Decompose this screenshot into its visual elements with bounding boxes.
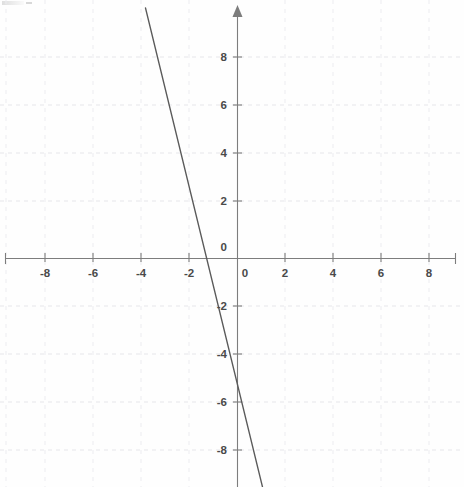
y-tick-label-neg8: -8	[217, 444, 228, 456]
x-tick-label-neg6: -6	[88, 267, 98, 279]
y-tick-label-neg2: -2	[217, 300, 227, 312]
y-tick-label-4: 4	[221, 147, 228, 159]
x-tick-label-6: 6	[378, 267, 384, 279]
y-tick-label-neg4: -4	[217, 348, 228, 360]
graph-canvas: -8 -6 -4 -2 0 2 4 6 8 8 6 4 2 0 -2 -4 -6…	[0, 0, 464, 487]
y-tick-label-2: 2	[221, 195, 227, 207]
x-tick-label-neg2: -2	[184, 267, 194, 279]
coordinate-plane-graph: -8 -6 -4 -2 0 2 4 6 8 8 6 4 2 0 -2 -4 -6…	[0, 0, 464, 487]
x-tick-label-8: 8	[426, 267, 433, 279]
y-tick-label-6: 6	[221, 99, 227, 111]
x-tick-label-neg8: -8	[40, 267, 51, 279]
grid-lines-horizontal	[0, 57, 464, 450]
y-tick-label-neg6: -6	[217, 396, 227, 408]
x-tick-label-2: 2	[282, 267, 288, 279]
grid-lines-vertical	[6, 0, 429, 487]
y-tick-label-8: 8	[221, 51, 228, 63]
y-axis-arrowhead	[233, 5, 243, 17]
x-tick-label-4: 4	[330, 267, 337, 279]
y-tick-label-zero: 0	[221, 241, 227, 253]
x-tick-label-zero: 0	[242, 267, 248, 279]
plotted-line-series	[146, 8, 263, 487]
x-tick-label-neg4: -4	[136, 267, 147, 279]
